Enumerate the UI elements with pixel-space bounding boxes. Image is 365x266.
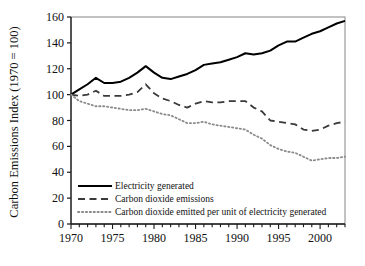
y-tick-label: 80 [52, 114, 64, 128]
y-tick-label: 40 [52, 165, 64, 179]
x-tick-label: 1980 [142, 231, 166, 245]
series-line-0 [71, 21, 345, 95]
x-tick-label: 1975 [101, 231, 125, 245]
y-tick-label: 120 [46, 62, 64, 76]
legend-label-0: Electricity generated [115, 181, 194, 191]
y-axis-title: Carbon Emissions Index (1970 = 100) [7, 26, 21, 217]
y-tick-label: 160 [46, 10, 64, 24]
x-axis-ticks [71, 224, 345, 229]
x-tick-label: 1995 [267, 231, 291, 245]
x-tick-label: 2000 [308, 231, 332, 245]
chart-figure: 020406080100120140160 197019751980198519… [0, 0, 365, 266]
x-tick-label: 1985 [184, 231, 208, 245]
y-tick-label: 0 [58, 217, 64, 231]
y-axis-tick-labels: 020406080100120140160 [46, 10, 64, 231]
y-tick-label: 60 [52, 139, 64, 153]
legend-label-2: Carbon dioxide emitted per unit of elect… [115, 207, 327, 217]
legend-label-1: Carbon dioxide emissions [115, 194, 214, 204]
line-chart: 020406080100120140160 197019751980198519… [0, 0, 365, 266]
x-tick-label: 1970 [59, 231, 83, 245]
plot-frame [71, 17, 345, 224]
x-axis-tick-labels: 1970197519801985199019952000 [59, 231, 332, 245]
x-tick-label: 1990 [225, 231, 249, 245]
y-tick-label: 140 [46, 36, 64, 50]
chart-legend: Electricity generatedCarbon dioxide emis… [78, 181, 327, 217]
y-tick-label: 100 [46, 88, 64, 102]
series-line-2 [71, 95, 345, 161]
y-tick-label: 20 [52, 191, 64, 205]
series-paths [71, 21, 345, 161]
